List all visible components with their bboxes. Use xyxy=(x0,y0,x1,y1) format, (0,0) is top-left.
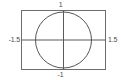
y-axis-bottom-tick-label: -1 xyxy=(0,71,121,79)
x-axis-left-tick-label: -1.5 xyxy=(1,36,20,44)
x-axis-right-tick-label: 1.5 xyxy=(108,36,121,44)
plot-figure: 1 -1 -1.5 1.5 xyxy=(0,0,121,81)
y-axis-top-tick-label: 1 xyxy=(0,1,121,9)
